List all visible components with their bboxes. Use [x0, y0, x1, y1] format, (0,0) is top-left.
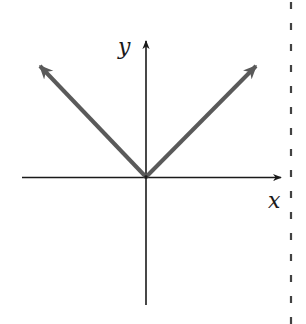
- x-axis-label: x: [268, 190, 280, 212]
- graph-canvas: [0, 0, 306, 324]
- absolute-value-graph: y x: [0, 0, 306, 324]
- left-ray: [40, 66, 146, 177]
- right-ray: [146, 66, 256, 177]
- y-axis-label: y: [118, 36, 130, 58]
- origin-point: [144, 175, 148, 179]
